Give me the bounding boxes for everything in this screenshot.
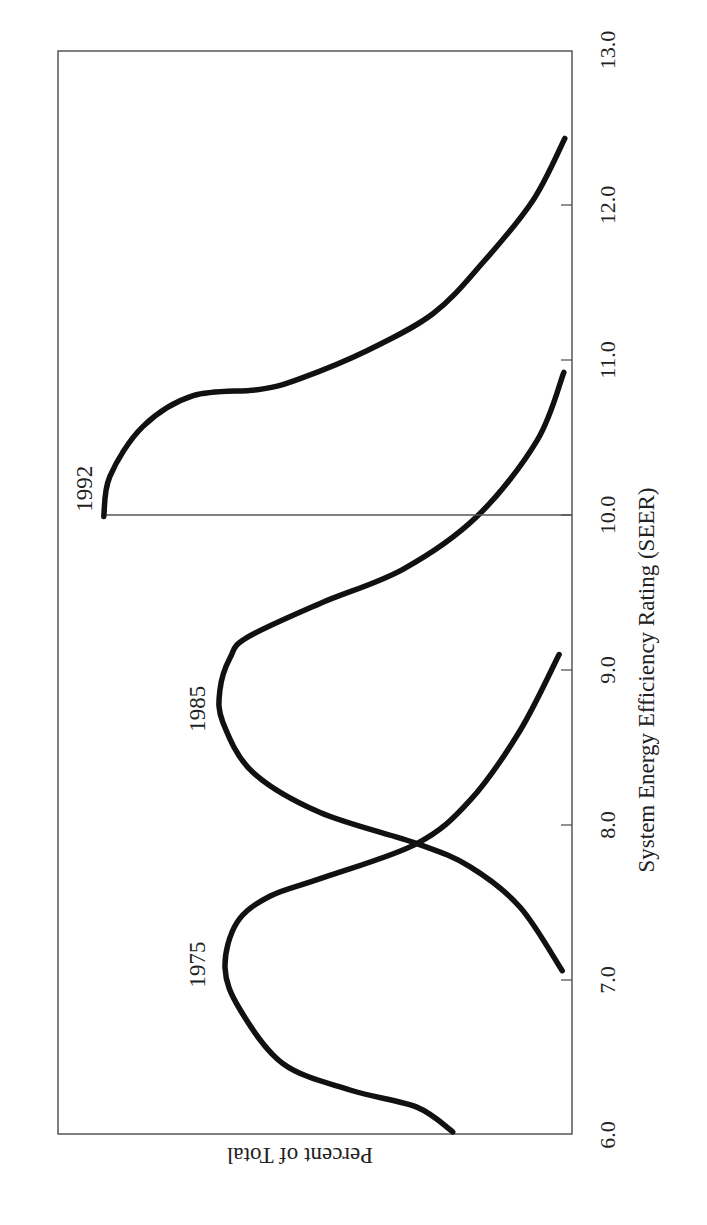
y-axis-title: Percent of Total [227,1143,373,1168]
series-label-1985: 1985 [185,686,210,732]
series-1992-curve [104,138,565,516]
curves [104,138,572,1132]
x-tick-label: 7.0 [595,966,620,994]
x-tick-label: 13.0 [595,31,620,70]
x-axis-title: System Energy Efficiency Rating (SEER) [634,488,659,873]
seer-distribution-chart: 6.07.08.09.010.011.012.013.0 19751985199… [0,0,707,1225]
curve-labels: 197519851992 [72,466,210,988]
series-label-1975: 1975 [185,942,210,988]
series-1985-curve [219,372,564,970]
series-label-1992: 1992 [72,466,97,512]
x-tick-label: 10.0 [595,496,620,535]
x-tick-label: 9.0 [595,656,620,684]
x-tick-label: 11.0 [595,341,620,379]
x-axis-ticks: 6.07.08.09.010.011.012.013.0 [561,31,620,1149]
plot-frame [58,51,572,1134]
x-tick-label: 8.0 [595,811,620,839]
x-tick-label: 12.0 [595,186,620,225]
x-tick-label: 6.0 [595,1121,620,1149]
